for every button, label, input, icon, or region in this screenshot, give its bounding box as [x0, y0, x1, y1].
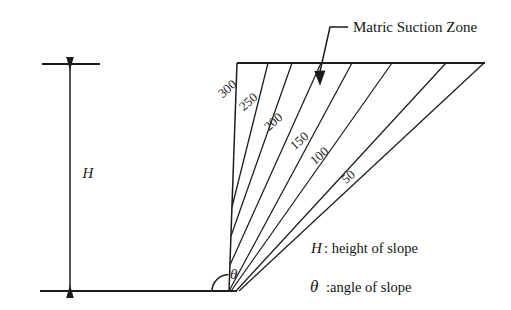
- legend-text-height: : height of slope: [324, 240, 418, 256]
- legend-sep-h: :: [324, 240, 332, 256]
- slope-matric-suction-figure: H 300 250 200 150 100 50: [0, 0, 511, 310]
- legend-symbol-h: H: [310, 240, 323, 256]
- diagram-canvas: H 300 250 200 150 100 50: [0, 0, 511, 310]
- contour-line-300: [232, 63, 268, 207]
- contour-line-toe-edge: [239, 63, 484, 291]
- callout-arrowhead: [314, 71, 325, 87]
- contour-line-200: [230, 63, 321, 265]
- contour-label-100: 100: [307, 144, 332, 168]
- slope-face-line: [229, 63, 237, 291]
- callout-label: Matric Suction Zone: [353, 19, 477, 35]
- angle-arc: [212, 274, 228, 291]
- height-dimension-group: H: [40, 57, 237, 298]
- angle-symbol-label: θ: [230, 266, 238, 282]
- contour-label-200: 200: [261, 110, 286, 134]
- height-symbol-label: H: [82, 165, 95, 181]
- legend-group: H : height of slope θ :angle of slope: [310, 240, 418, 296]
- callout-leader-line: [319, 27, 348, 76]
- legend-desc-h: height of slope: [332, 240, 418, 256]
- legend-symbol-theta: θ: [310, 277, 318, 296]
- legend-text-angle: :angle of slope: [326, 279, 411, 295]
- legend-desc-theta: angle of slope: [330, 279, 411, 295]
- callout-leader-group: Matric Suction Zone: [314, 19, 477, 86]
